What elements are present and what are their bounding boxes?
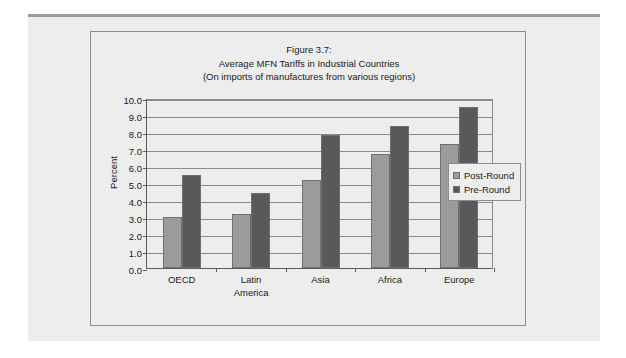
y-axis-tick-label: 0.0 — [129, 265, 142, 276]
bar-group — [232, 100, 270, 268]
x-axis-tick-label: Africa — [350, 273, 430, 286]
x-axis-tick-mark — [286, 268, 287, 272]
x-axis-tick-mark — [494, 268, 495, 272]
chart-legend[interactable]: Post-Round Pre-Round — [448, 163, 521, 201]
bar-post-round[interactable] — [232, 214, 251, 268]
x-axis-tick-label: Asia — [281, 273, 361, 286]
bar-pre-round[interactable] — [251, 193, 270, 268]
y-axis-tick-mark — [143, 117, 147, 118]
y-axis-tick-label: 7.0 — [129, 146, 142, 157]
x-axis-tick-label-line: Europe — [419, 273, 499, 286]
y-axis-tick-mark — [143, 168, 147, 169]
legend-swatch-post-round — [453, 172, 460, 179]
bar-post-round[interactable] — [302, 180, 321, 268]
y-axis-tick-label: 3.0 — [129, 214, 142, 225]
legend-item-pre-round[interactable]: Pre-Round — [453, 182, 514, 196]
x-axis-tick-mark — [216, 268, 217, 272]
y-axis-tick-mark — [143, 185, 147, 186]
bar-group — [163, 100, 201, 268]
bar-pre-round[interactable] — [390, 126, 409, 268]
bar-group — [371, 100, 409, 268]
y-axis-tick-mark — [143, 202, 147, 203]
y-axis-tick-label: 8.0 — [129, 129, 142, 140]
x-axis-tick-label-line: Asia — [281, 273, 361, 286]
y-axis-tick-label: 6.0 — [129, 163, 142, 174]
y-axis-tick-label: 9.0 — [129, 112, 142, 123]
y-axis-tick-label: 5.0 — [129, 180, 142, 191]
y-axis-tick-mark — [143, 100, 147, 101]
legend-item-post-round[interactable]: Post-Round — [453, 168, 514, 182]
x-axis-tick-mark — [425, 268, 426, 272]
bar-pre-round[interactable] — [182, 175, 201, 269]
bar-post-round[interactable] — [163, 217, 182, 268]
chart-frame: Figure 3.7: Average MFN Tariffs in Indus… — [90, 31, 526, 326]
y-axis-tick-label: 10.0 — [124, 95, 143, 106]
y-axis-tick-label: 2.0 — [129, 231, 142, 242]
page-sheet: Figure 3.7: Average MFN Tariffs in Indus… — [0, 0, 626, 358]
x-axis-tick-label: Europe — [419, 273, 499, 286]
bar-pre-round[interactable] — [321, 135, 340, 268]
bar-group — [302, 100, 340, 268]
x-axis-title — [146, 288, 493, 299]
plot-area: 10.09.08.07.06.05.04.03.02.01.00.0 OECDL… — [146, 99, 493, 269]
y-axis-tick-label: 1.0 — [129, 248, 142, 259]
y-axis-tick-mark — [143, 270, 147, 271]
bar-post-round[interactable] — [371, 154, 390, 268]
y-axis-tick-mark — [143, 151, 147, 152]
x-axis-tick-label: OECD — [142, 273, 222, 286]
y-axis-tick-mark — [143, 253, 147, 254]
x-axis-tick-mark — [355, 268, 356, 272]
y-axis-tick-mark — [143, 236, 147, 237]
y-axis-tick-mark — [143, 134, 147, 135]
x-axis-tick-label-line: Africa — [350, 273, 430, 286]
y-axis-tick-label: 4.0 — [129, 197, 142, 208]
x-axis-tick-label-line: OECD — [142, 273, 222, 286]
y-axis-title: Percent — [108, 133, 119, 213]
y-axis-tick-mark — [143, 219, 147, 220]
legend-label-pre-round: Pre-Round — [464, 184, 510, 195]
horizontal-rule — [28, 14, 600, 17]
legend-swatch-pre-round — [453, 186, 460, 193]
x-axis-tick-label-line: Latin — [211, 273, 291, 286]
plot-wrapper: Percent 10.09.08.07.06.05.04.03.02.01.00… — [91, 32, 527, 327]
legend-label-post-round: Post-Round — [464, 170, 514, 181]
